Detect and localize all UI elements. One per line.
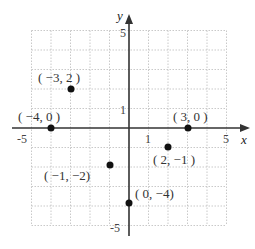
point-2-neg1	[165, 144, 172, 151]
label-neg3-2: ( −3, 2 )	[38, 70, 80, 85]
point-neg1-neg2	[107, 162, 114, 169]
x-tick-5: 5	[223, 132, 229, 146]
y-tick-5: 5	[120, 26, 126, 40]
point-neg3-2	[68, 86, 75, 93]
label-2-neg1: ( 2, −1 )	[153, 152, 195, 167]
x-axis-arrow-icon	[240, 124, 250, 132]
coordinate-plane: y x -5 1 5 5 1 -5 ( −3, 2 ) ( −4, 0 ) ( …	[0, 0, 255, 249]
x-tick-1: 1	[145, 132, 151, 146]
x-axis-label: x	[240, 132, 247, 147]
y-axis-label: y	[115, 8, 123, 23]
y-axis-arrow-icon	[125, 14, 133, 24]
label-neg4-0: ( −4, 0 )	[18, 109, 60, 124]
label-0-neg4: ( 0, −4)	[135, 186, 174, 201]
y-tick-1: 1	[120, 103, 126, 117]
x-tick-neg5: -5	[17, 132, 27, 146]
y-tick-neg5: -5	[110, 221, 120, 235]
point-3-0	[185, 125, 192, 132]
label-3-0: ( 3, 0 )	[173, 109, 208, 124]
label-neg1-neg2: ( −1, −2)	[44, 168, 90, 183]
point-0-neg4	[126, 200, 133, 207]
point-neg4-0	[48, 125, 55, 132]
